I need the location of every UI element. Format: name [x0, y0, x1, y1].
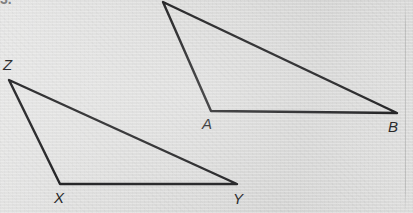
diagram-canvas [0, 0, 413, 213]
vertex-label-z: Z [3, 57, 12, 72]
vertex-label-y: Y [233, 191, 243, 206]
vertex-label-x: X [54, 190, 64, 205]
vertex-label-b: B [388, 119, 398, 134]
vertex-label-a: A [202, 116, 212, 131]
triangle-xyz [9, 80, 237, 184]
triangle-abc [163, 2, 397, 113]
geometry-figure: 3. Z X Y A B [0, 0, 413, 213]
